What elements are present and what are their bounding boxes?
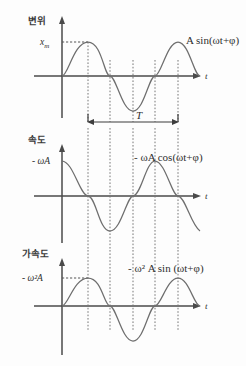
displacement-equation: A sin(ωt+φ): [186, 34, 239, 47]
acceleration-time-label: t: [205, 301, 208, 311]
velocity-amplitude-label: - ωA: [32, 156, 50, 166]
velocity-equation: - ωA cos(ωt+φ): [134, 151, 203, 164]
period-label: T: [136, 109, 143, 121]
acceleration-amplitude-label: - ω²A: [22, 273, 43, 283]
displacement-amplitude-label: xm: [39, 37, 49, 50]
panel-acceleration: 가속도 t - ω²A - ω² A sin (ωt+φ): [22, 248, 208, 355]
velocity-x-axis-arrowhead: [193, 193, 201, 199]
acceleration-curve: [62, 278, 200, 341]
panel-displacement: 변위 t xm A sin(ωt+φ): [28, 15, 239, 122]
velocity-axis-title: 속도: [28, 134, 46, 145]
velocity-time-label: t: [205, 191, 208, 201]
displacement-time-label: t: [205, 71, 208, 81]
displacement-axis-title: 변위: [28, 15, 46, 26]
shm-figure: 변위 t xm A sin(ωt+φ) T 속도: [0, 0, 246, 366]
velocity-y-axis-arrowhead: [59, 144, 65, 152]
panel-velocity: 속도 t - ωA - ωA cos(ωt+φ): [28, 128, 208, 250]
displacement-y-axis-arrowhead: [59, 16, 65, 24]
acceleration-axis-title: 가속도: [22, 248, 49, 259]
acceleration-y-axis-arrowhead: [59, 258, 65, 266]
acceleration-equation: - ω² A sin (ωt+φ): [128, 262, 204, 275]
